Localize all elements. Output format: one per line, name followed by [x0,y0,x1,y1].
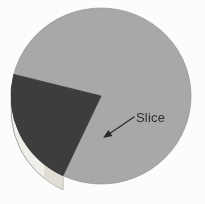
scan-texture-overlay [0,0,205,204]
pie-chart-figure: Slice [0,0,205,204]
pie-chart-canvas [0,0,205,204]
callout-label: Slice [136,111,165,125]
